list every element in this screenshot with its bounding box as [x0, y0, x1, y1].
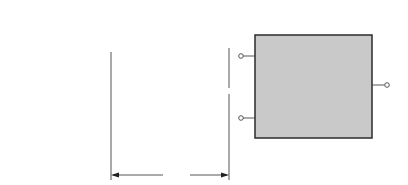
input-terminal-f1 — [0, 0, 255, 58]
arrow-right-icon — [221, 173, 229, 178]
terminal-circle-icon — [239, 116, 244, 121]
arrow-left-icon — [111, 173, 119, 178]
modulator-diagram — [0, 0, 408, 185]
time-span-dimension — [111, 173, 229, 178]
terminal-circle-icon — [385, 83, 390, 88]
balanced-modulator-block — [255, 35, 372, 138]
input-terminal-f2 — [0, 0, 255, 120]
terminal-circle-icon — [239, 54, 244, 59]
